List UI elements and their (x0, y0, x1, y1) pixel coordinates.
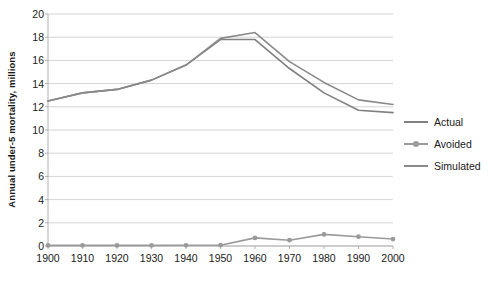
x-tick-label: 1940 (174, 252, 197, 264)
x-tick-label: 1930 (140, 252, 163, 264)
legend-item-avoided[interactable]: Avoided (404, 135, 488, 153)
x-tick-label: 1910 (71, 252, 94, 264)
legend-line-icon (404, 121, 428, 123)
legend-swatch-avoided (404, 139, 428, 149)
legend-label: Actual (434, 116, 463, 128)
legend-item-actual[interactable]: Actual (404, 113, 488, 131)
legend-marker-icon (413, 141, 419, 147)
legend-label: Simulated (434, 160, 481, 172)
x-tick-label: 1900 (36, 252, 59, 264)
x-tick-label: 1950 (209, 252, 232, 264)
x-tick-label: 1920 (105, 252, 128, 264)
legend-swatch-simulated (404, 161, 428, 171)
x-tick-label: 1970 (278, 252, 301, 264)
legend-line-icon (404, 165, 428, 167)
x-tick-label: 1990 (347, 252, 370, 264)
legend-swatch-actual (404, 117, 428, 127)
x-tick-label: 2000 (381, 252, 404, 264)
chart-container: Annual under-5 mortality, millions 02468… (0, 0, 488, 283)
chart-legend: ActualAvoidedSimulated (404, 113, 488, 179)
x-tick-label: 1980 (312, 252, 335, 264)
x-tick-label: 1960 (243, 252, 266, 264)
legend-label: Avoided (434, 138, 472, 150)
legend-item-simulated[interactable]: Simulated (404, 157, 488, 175)
